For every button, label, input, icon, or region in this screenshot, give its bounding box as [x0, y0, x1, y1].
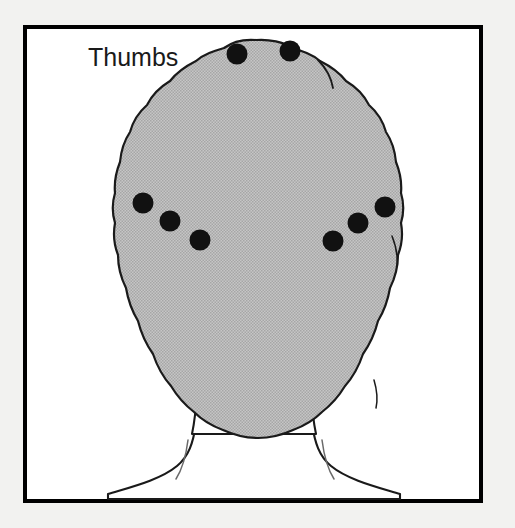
marker-right-upper [375, 197, 396, 218]
marker-left-middle [160, 211, 181, 232]
marker-right-lower [323, 231, 344, 252]
head-diagram-svg: Thumbs [0, 0, 515, 528]
marker-left-lower [190, 230, 211, 251]
marker-crown-left [227, 44, 248, 65]
marker-left-upper [133, 193, 154, 214]
figure-root: Thumbs [0, 0, 515, 528]
thumbs-label: Thumbs [88, 43, 178, 71]
marker-crown-right [280, 41, 301, 62]
marker-right-middle [348, 213, 369, 234]
